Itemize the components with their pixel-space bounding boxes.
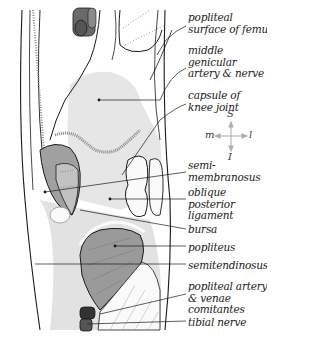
- orientation-compass: [215, 122, 247, 151]
- capsule-region: [68, 72, 162, 210]
- compass-lateral: l: [249, 129, 252, 140]
- label-semimembranosus: semi- membranosus: [188, 160, 261, 183]
- tibial-nerve-shape: [80, 319, 92, 331]
- popliteal-artery-shape: [80, 307, 95, 319]
- label-tibial-nerve: tibial nerve: [188, 317, 246, 329]
- compass-superior: S: [227, 108, 234, 119]
- bursa: [50, 207, 70, 223]
- label-popliteal-artery: popliteal artery & venae comitantes: [188, 281, 267, 316]
- label-popliteal-surface: popliteal surface of femur: [188, 12, 267, 35]
- label-semitendinosus: semitendinosus: [188, 260, 267, 272]
- label-bursa: bursa: [188, 224, 217, 236]
- label-middle-genicular: middle genicular artery & nerve: [188, 45, 264, 80]
- label-oblique-posterior-ligament: oblique posterior ligament: [188, 187, 235, 222]
- compass-inferior: I: [228, 151, 232, 162]
- label-popliteus: popliteus: [188, 242, 235, 254]
- compass-medial: m: [205, 129, 214, 140]
